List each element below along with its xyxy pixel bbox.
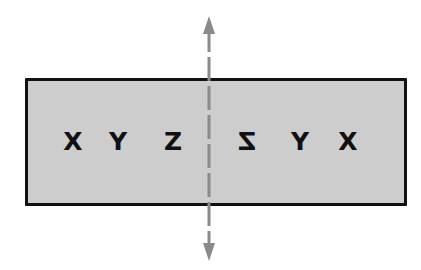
arrow-down-icon: [203, 243, 215, 261]
arrow-up-icon: [203, 16, 215, 34]
line-of-symmetry: [0, 0, 421, 270]
symmetry-diagram: X Y Z Z Y X: [0, 0, 421, 270]
